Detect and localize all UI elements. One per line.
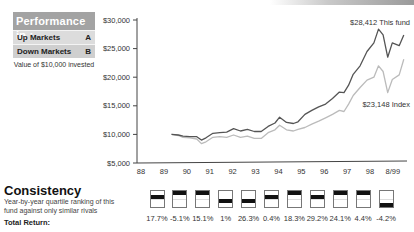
- consistency-title: Consistency: [4, 184, 144, 197]
- x-tick-label: 91: [206, 167, 214, 176]
- quartile-box: [333, 190, 348, 208]
- fund-line: [172, 29, 404, 140]
- x-axis: 88899091929394959697988/99: [137, 161, 407, 176]
- quartile-box: [150, 190, 165, 208]
- quartile-box: [356, 190, 371, 208]
- x-tick-label: 90: [183, 167, 191, 176]
- quartile-midline: [173, 199, 186, 200]
- growth-line-chart: $30,000$25,000$20,000$15,000$10,000$5,00…: [0, 0, 414, 185]
- quartile-box: [218, 190, 233, 208]
- x-tick-label: 88: [137, 167, 145, 176]
- y-tick-label: $20,000: [103, 73, 130, 82]
- quartile-marker: [151, 195, 164, 199]
- x-tick-label: 97: [343, 167, 351, 176]
- y-tick-label: $10,000: [103, 130, 130, 139]
- x-tick-label: 95: [297, 167, 305, 176]
- fund-end-label: $28,412 This fund: [350, 18, 410, 27]
- quartile-marker: [219, 199, 232, 203]
- y-tick-label: $30,000: [103, 16, 130, 25]
- x-tick-label: 96: [320, 167, 328, 176]
- quartile-midline: [265, 199, 278, 200]
- x-tick-label: 89: [160, 167, 168, 176]
- y-tick-label: $25,000: [103, 44, 130, 53]
- chart-lines: [172, 29, 404, 144]
- quartile-box: [195, 190, 210, 208]
- quartile-midline: [151, 199, 164, 200]
- quartile-box: [264, 190, 279, 208]
- x-tick-label: 98: [366, 167, 374, 176]
- quartile-marker: [288, 191, 301, 195]
- quartile-box: [379, 190, 394, 208]
- consistency-description-1: Year-by-year quartile ranking of this: [4, 198, 144, 206]
- index-end-label: $23,148 Index: [362, 100, 410, 109]
- quartile-box: [172, 190, 187, 208]
- quartile-box: [241, 190, 256, 208]
- consistency-section: Consistency Year-by-year quartile rankin…: [4, 184, 144, 227]
- quartile-marker: [196, 191, 209, 195]
- x-tick-label: 94: [274, 167, 282, 176]
- annual-return-value: -4.2%: [373, 214, 399, 223]
- y-tick-label: $15,000: [103, 101, 130, 110]
- quartile-marker: [311, 195, 324, 199]
- quartile-midline: [357, 199, 370, 200]
- x-tick-label: 8/99: [386, 167, 401, 176]
- quartile-marker: [334, 191, 347, 195]
- quartile-marker: [380, 203, 393, 207]
- quartile-box: [310, 190, 325, 208]
- quartile-midline: [334, 199, 347, 200]
- quartile-midline: [196, 199, 209, 200]
- quartile-marker: [173, 191, 186, 195]
- x-tick-label: 93: [251, 167, 259, 176]
- y-tick-label: $5,000: [107, 159, 130, 168]
- quartile-marker: [357, 191, 370, 195]
- x-tick-label: 92: [228, 167, 236, 176]
- quartile-midline: [311, 199, 324, 200]
- quartile-box: [287, 190, 302, 208]
- quartile-marker: [265, 195, 278, 199]
- consistency-description-2: fund against only similar rivals: [4, 207, 144, 215]
- y-axis: $30,000$25,000$20,000$15,000$10,000$5,00…: [103, 16, 137, 168]
- total-return-label: Total Return:: [4, 218, 144, 227]
- quartile-midline: [288, 199, 301, 200]
- quartile-marker: [242, 199, 255, 203]
- quartile-midline: [380, 199, 393, 200]
